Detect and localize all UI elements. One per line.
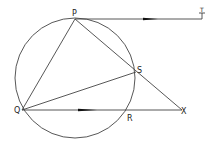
segment-PQ: [22, 19, 75, 110]
label-X: X: [181, 107, 187, 116]
label-T: T: [199, 6, 204, 13]
label-P: P: [72, 9, 77, 18]
label-Q: Q: [14, 106, 20, 115]
parallel-arrow-QX: [78, 109, 97, 111]
segment-PX: [75, 19, 182, 110]
parallel-arrow-PT: [143, 18, 158, 20]
geometry-diagram: P T S Q R X: [0, 0, 213, 145]
label-S: S: [137, 66, 142, 75]
label-R: R: [127, 114, 133, 123]
segment-QS: [22, 72, 136, 110]
